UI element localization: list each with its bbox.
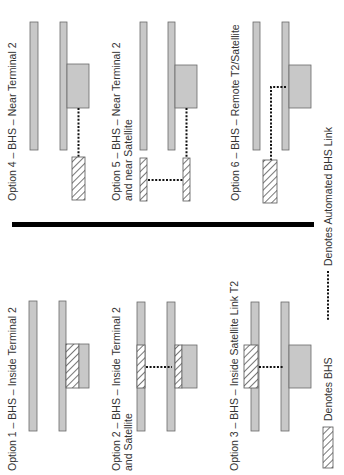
option-1-label: Option 1 – BHS – Inside Terminal 2 <box>6 307 18 471</box>
option-3-label: Option 3 – BHS – Inside Satellite Link T… <box>228 281 240 471</box>
terminal-box <box>182 345 197 388</box>
bhs-block-terminal <box>175 345 182 388</box>
satellite-bar <box>30 22 38 150</box>
bhs-block <box>263 160 277 203</box>
bhs-block <box>72 157 85 200</box>
terminal-bar <box>60 22 67 150</box>
option-4-diagram <box>30 22 89 200</box>
option-5-diagram <box>140 22 197 201</box>
terminal-box <box>67 64 89 108</box>
diagram-canvas <box>0 0 344 475</box>
satellite-bar <box>253 22 260 150</box>
satellite-bar <box>140 22 147 150</box>
option-2-diagram <box>137 302 197 431</box>
row-separator <box>12 222 314 227</box>
terminal-bar <box>59 301 66 431</box>
legend-bhs-label: Denotes BHS <box>322 357 334 421</box>
satellite-bar <box>29 301 37 431</box>
option-3-diagram <box>244 302 311 431</box>
option-2-label: Option 2 – BHS – Inside Terminal 2 and S… <box>110 307 134 471</box>
legend-bhs-swatch <box>323 427 333 468</box>
bhs-block <box>244 345 258 388</box>
option-4-label: Option 4 – BHS – Near Terminal 2 <box>6 42 18 201</box>
legend-link-label: Denotes Automated BHS Link <box>322 127 334 266</box>
terminal-box <box>289 65 311 108</box>
terminal-bar <box>168 22 175 150</box>
bhs-block-terminal <box>183 158 190 201</box>
terminal-box <box>175 65 197 108</box>
bhs-block-satellite <box>137 345 145 388</box>
terminal-box <box>79 344 89 388</box>
bhs-block-satellite <box>140 158 147 201</box>
option-6-diagram <box>253 22 311 203</box>
terminal-box <box>289 345 311 388</box>
bhs-block <box>66 344 79 388</box>
option-6-label: Option 6 – BHS – Remote T2/Satellite <box>229 24 241 201</box>
option-5-label: Option 5 – BHS – Near Terminal 2 and nea… <box>110 42 134 201</box>
option-1-diagram <box>29 301 89 431</box>
